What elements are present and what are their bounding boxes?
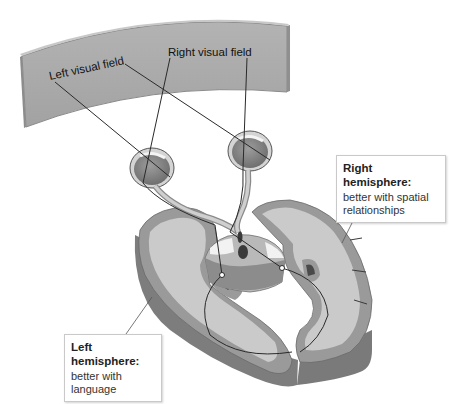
left-hemisphere-label-box: Left hemisphere: better with language: [64, 334, 162, 402]
left-hemisphere-description-line2: language: [71, 383, 155, 396]
right-hemisphere-description-line1: better with spatial: [343, 191, 439, 204]
left-hemisphere-title: Left hemisphere:: [71, 340, 155, 368]
right-hemisphere-title: Right hemisphere:: [343, 161, 439, 189]
right-hemisphere-description-line2: relationships: [343, 204, 439, 217]
right-visual-field-label: Right visual field: [168, 46, 252, 58]
right-hemisphere-label-box: Right hemisphere: better with spatial re…: [336, 155, 446, 223]
left-eye: [130, 148, 174, 188]
left-hemisphere-leader: [126, 297, 152, 334]
left-hemisphere-description-line1: better with: [71, 370, 155, 383]
brain-slab: [135, 200, 372, 386]
